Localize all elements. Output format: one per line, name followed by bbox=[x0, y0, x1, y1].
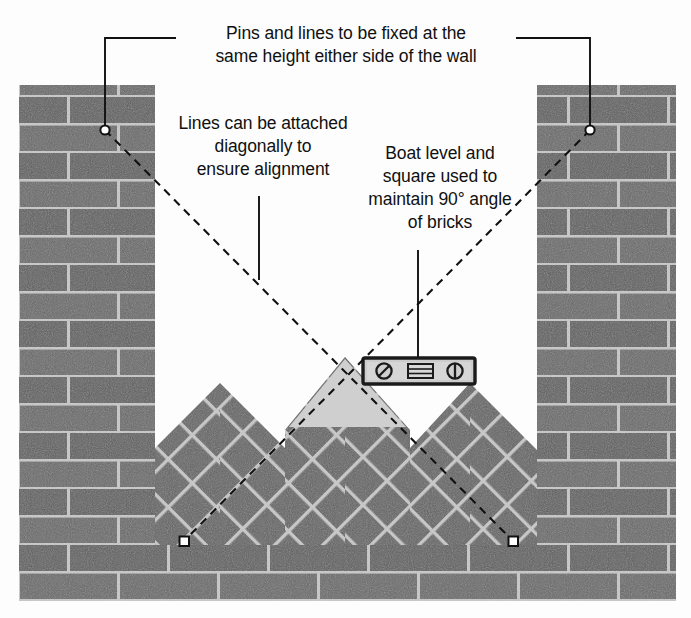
boat-level bbox=[363, 358, 475, 384]
diagram-svg bbox=[0, 0, 691, 618]
plumb-vial-icon bbox=[376, 363, 391, 378]
pin-top-right bbox=[585, 125, 594, 134]
square-vial-icon bbox=[447, 363, 462, 378]
callout-pins-and-lines: Pins and lines to be fixed at the same h… bbox=[176, 22, 516, 68]
wall-base-courses bbox=[19, 545, 676, 601]
level-vial-icon bbox=[408, 364, 433, 378]
wall-left-pier bbox=[19, 85, 155, 545]
pin-bottom-right bbox=[509, 537, 519, 547]
diagram-canvas: Pins and lines to be fixed at the same h… bbox=[0, 0, 691, 618]
pin-bottom-left bbox=[180, 537, 190, 547]
callout-boat-level: Boat level and square used to maintain 9… bbox=[340, 142, 540, 234]
wall-right-pier bbox=[537, 85, 676, 545]
pin-top-left bbox=[100, 125, 109, 134]
